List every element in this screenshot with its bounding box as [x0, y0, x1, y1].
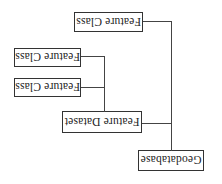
connector-trunk: [171, 22, 172, 151]
node-label: Feature Class: [15, 82, 80, 94]
node-geodatabase: Geodatabase: [138, 150, 204, 171]
node-label: Geodatabase: [141, 155, 202, 167]
node-feature-class-1: Feature Class: [14, 78, 81, 97]
connector-root-to-dataset: [142, 123, 172, 124]
node-feature-class-2: Feature Class: [14, 48, 81, 67]
connector-dataset-to-class-1: [81, 87, 105, 88]
node-feature-class-3: Feature Class: [74, 12, 143, 32]
node-label: Feature Dataset: [65, 116, 140, 128]
node-label: Feature Class: [76, 16, 141, 28]
node-feature-dataset: Feature Dataset: [62, 111, 142, 133]
node-label: Feature Class: [15, 52, 80, 64]
connector-dataset-trunk: [104, 57, 105, 112]
connector-dataset-to-class-2: [81, 56, 105, 57]
geodatabase-hierarchy-diagram: Geodatabase Feature Dataset Feature Clas…: [0, 0, 222, 184]
connector-root-to-class-3: [143, 21, 172, 22]
